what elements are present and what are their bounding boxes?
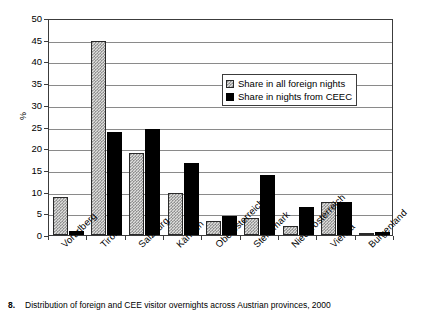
x-tick-mark <box>86 236 87 240</box>
y-tick-label: 40 <box>20 57 42 67</box>
x-tick-mark <box>163 236 164 240</box>
x-tick-mark <box>316 236 317 240</box>
legend-label: Share in all foreign nights <box>238 78 345 89</box>
legend-swatch-dark-icon <box>226 93 234 101</box>
y-axis-label: % <box>16 109 30 123</box>
legend-item-all-foreign-nights: Share in all foreign nights <box>226 77 352 90</box>
bar <box>168 193 183 235</box>
y-tick-label: 30 <box>20 101 42 111</box>
caption-number: 8. <box>8 300 15 311</box>
y-tick-label: 0 <box>20 231 42 241</box>
x-tick-mark <box>393 236 394 240</box>
x-tick-mark <box>355 236 356 240</box>
figure: % 50454035302520151050 VorarlbergTirolSa… <box>0 0 425 313</box>
y-tick-label: 20 <box>20 144 42 154</box>
y-tick-label: 45 <box>20 36 42 46</box>
x-tick-mark <box>48 236 49 240</box>
y-tick-label: 10 <box>20 188 42 198</box>
legend-swatch-light-icon <box>226 80 234 88</box>
bar <box>206 221 221 235</box>
caption-text: Distribution of foreign and CEE visitor … <box>25 300 331 311</box>
x-tick-mark <box>240 236 241 240</box>
legend-item-ceec-nights: Share in nights from CEEC <box>226 90 352 103</box>
bar <box>91 41 106 235</box>
legend-label: Share in nights from CEEC <box>238 91 352 102</box>
y-tick-label: 25 <box>20 123 42 133</box>
bar <box>129 153 144 235</box>
bar <box>107 132 122 235</box>
chart-legend: Share in all foreign nights Share in nig… <box>222 74 357 106</box>
y-tick-label: 5 <box>20 209 42 219</box>
x-tick-mark <box>125 236 126 240</box>
x-tick-mark <box>201 236 202 240</box>
y-tick-label: 15 <box>20 166 42 176</box>
x-tick-mark <box>278 236 279 240</box>
y-tick-label: 35 <box>20 79 42 89</box>
y-tick-label: 50 <box>20 14 42 24</box>
bar <box>53 197 68 235</box>
figure-caption: 8. Distribution of foreign and CEE visit… <box>8 300 420 311</box>
